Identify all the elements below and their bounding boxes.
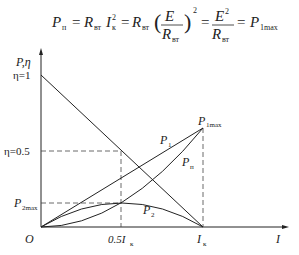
pn-label: P (181, 155, 190, 169)
p1max-label: P (197, 114, 206, 128)
p1-label: P (159, 133, 168, 147)
eta-half-label: η=0.5 (4, 145, 30, 157)
p2-label: P (142, 203, 151, 217)
y-axis-arrow-icon (39, 48, 43, 55)
eta-1-label: η=1 (13, 69, 30, 81)
p1max-label-sub: 1max (206, 121, 222, 129)
pn-label-sub: п (190, 163, 194, 171)
ik-label-sub: к (203, 240, 207, 248)
p2max-label: P (13, 196, 22, 210)
ik-label: I (196, 232, 202, 246)
x-axis-label: I (275, 232, 281, 246)
x-axis-arrow-icon (282, 225, 289, 229)
p2-curve (41, 203, 203, 227)
power-efficiency-plot: P,η I O η=1 η=0.5 P 2max 0.5I к I к P 1 … (0, 0, 299, 255)
p1-label-sub: 1 (168, 141, 172, 149)
p2max-label-sub: 2max (22, 204, 38, 212)
y-axis-label: P,η (15, 55, 31, 69)
half-ik-label-sub: к (130, 240, 134, 248)
p2-label-sub: 2 (151, 211, 155, 219)
half-ik-label: 0.5I (108, 233, 127, 245)
origin-label: O (25, 232, 34, 246)
p1-line (41, 128, 203, 227)
